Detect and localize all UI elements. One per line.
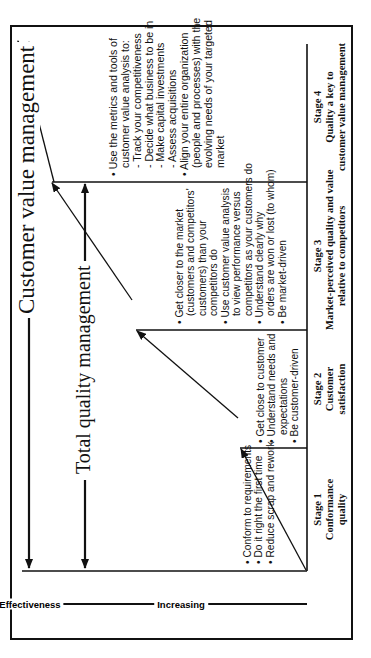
increasing-label: Increasing bbox=[154, 599, 208, 610]
effectiveness-label: Effectiveness bbox=[0, 599, 64, 610]
increasing-arrow bbox=[10, 25, 353, 640]
axis-column: Increasing Effectiveness bbox=[10, 25, 353, 640]
